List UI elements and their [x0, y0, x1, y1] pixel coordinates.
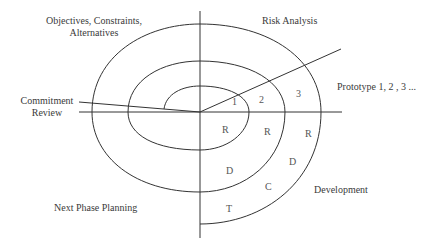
commitment-review-line2: Review — [12, 107, 82, 119]
outer-letter-d: D — [289, 156, 296, 167]
prototype-number-1: 1 — [232, 96, 237, 107]
prototype-line — [200, 49, 341, 112]
development-label: Development — [314, 184, 368, 196]
inner-letter-r: R — [222, 124, 229, 135]
outer-letter-r: R — [305, 128, 312, 139]
commitment-line — [79, 102, 200, 112]
outer-spiral — [92, 24, 321, 224]
commitment-review-label: Commitment Review — [12, 95, 82, 119]
middle-letter-r: R — [264, 126, 271, 137]
middle-spiral — [128, 61, 285, 192]
objectives-label: Objectives, Constraints, Alternatives — [40, 15, 148, 39]
prototype-number-2: 2 — [259, 94, 264, 105]
prototype-label: Prototype 1, 2 , 3 ... — [337, 81, 416, 93]
middle-letter-d: D — [226, 165, 233, 176]
outer-letter-t: T — [226, 203, 232, 214]
commitment-review-line1: Commitment — [12, 95, 82, 107]
risk-analysis-label: Risk Analysis — [262, 15, 317, 27]
prototype-number-3: 3 — [296, 88, 301, 99]
objectives-label-line1: Objectives, Constraints, — [40, 15, 148, 27]
next-phase-planning-label: Next Phase Planning — [54, 202, 137, 214]
outer-letter-c: C — [265, 181, 272, 192]
objectives-label-line2: Alternatives — [40, 27, 148, 39]
